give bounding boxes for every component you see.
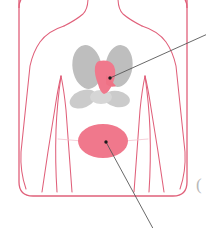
neck-left-line — [64, 0, 88, 26]
left-inner-arm-line-inner — [61, 76, 72, 192]
mediastinum-shape — [90, 90, 112, 104]
abdominal-organ-group — [78, 124, 128, 158]
anatomy-figure: Anterior torso anatomy diagram Front vie… — [0, 0, 206, 228]
right-inner-arm-line-outer — [145, 76, 164, 192]
left-inner-arm-line-outer — [42, 76, 61, 192]
abdominal-organ-shape — [78, 124, 128, 158]
callout-abdomen-line — [106, 142, 156, 228]
right-inner-arm-line-inner — [134, 76, 145, 192]
frame-border-top — [19, 0, 187, 8]
anatomy-illustration: ( — [0, 0, 206, 228]
cropped-glyph-right: ( — [196, 175, 202, 194]
right-flank-line — [145, 76, 150, 192]
neck-right-line — [118, 0, 142, 26]
callout-heart-dot — [108, 76, 111, 79]
heart-group — [95, 61, 116, 94]
left-flank-line — [56, 76, 61, 192]
callout-abdomen-dot — [104, 140, 107, 143]
